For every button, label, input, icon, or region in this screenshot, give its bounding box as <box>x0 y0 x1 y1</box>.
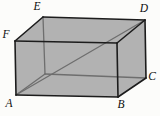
front-face <box>15 41 118 97</box>
vertex-label-C: C <box>148 70 156 82</box>
rectangular-prism-diagram: ABCDEF <box>0 0 160 116</box>
vertex-label-F: F <box>1 28 10 40</box>
vertex-label-E: E <box>32 0 40 12</box>
edge-A-F <box>15 41 16 95</box>
edge-G-B <box>117 43 118 97</box>
edge-D-C <box>145 20 146 78</box>
vertex-label-D: D <box>139 2 149 14</box>
diagram-stage: ABCDEF <box>0 0 160 116</box>
vertex-label-A: A <box>4 97 13 109</box>
vertex-label-B: B <box>117 98 124 110</box>
